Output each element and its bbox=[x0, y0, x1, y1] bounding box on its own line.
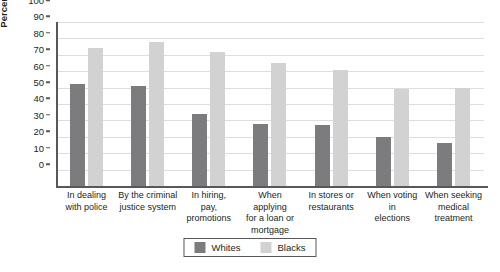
x-label-line: elections bbox=[375, 213, 411, 223]
x-label-line: restaurants bbox=[309, 202, 354, 212]
bar-blacks bbox=[271, 63, 286, 186]
x-label-line: pay, bbox=[201, 202, 217, 212]
bar-blacks bbox=[455, 88, 470, 186]
bar-chart: Percentage 1009080706050403020100 In dea… bbox=[0, 0, 500, 272]
bar-group bbox=[178, 22, 239, 186]
x-axis-line bbox=[56, 186, 488, 188]
legend-label: Whites bbox=[211, 242, 240, 253]
y-tick-label: 90 bbox=[0, 11, 44, 22]
bar-whites bbox=[131, 86, 146, 186]
bar-group bbox=[301, 22, 362, 186]
y-tick-label: 100 bbox=[0, 0, 44, 6]
y-tick-label: 40 bbox=[0, 93, 44, 104]
bar-blacks bbox=[88, 48, 103, 186]
y-tick-label: 10 bbox=[0, 142, 44, 153]
bar-blacks bbox=[149, 42, 164, 186]
y-tick-mark bbox=[46, 32, 50, 34]
x-label-line: mortgage bbox=[251, 225, 289, 235]
y-tick-mark bbox=[46, 114, 50, 116]
y-tick-mark bbox=[46, 0, 50, 1]
x-axis-category-label: In hiring,pay,promotions bbox=[178, 190, 239, 236]
legend-item-whites: Whites bbox=[194, 242, 240, 253]
y-tick-label: 20 bbox=[0, 126, 44, 137]
legend-item-blacks: Blacks bbox=[261, 242, 306, 253]
bar-group bbox=[56, 22, 117, 186]
bar-group bbox=[362, 22, 423, 186]
x-label-line: In dealing bbox=[67, 190, 106, 200]
bar-whites bbox=[70, 84, 85, 186]
bar-whites bbox=[253, 124, 268, 186]
x-label-line: for a loan or bbox=[246, 213, 294, 223]
x-label-line: When voting in bbox=[367, 190, 417, 212]
x-label-line: When seeking bbox=[425, 190, 482, 200]
bar-whites bbox=[192, 114, 207, 186]
legend-swatch-icon bbox=[261, 242, 272, 253]
y-tick-label: 80 bbox=[0, 27, 44, 38]
x-axis-category-label: In dealingwith police bbox=[56, 190, 117, 236]
bar-whites bbox=[437, 143, 452, 186]
bar-group bbox=[239, 22, 300, 186]
bar-blacks bbox=[394, 89, 409, 186]
x-label-line: In hiring, bbox=[192, 190, 227, 200]
y-tick-mark bbox=[46, 65, 50, 67]
x-label-line: medical bbox=[438, 202, 469, 212]
legend: WhitesBlacks bbox=[183, 238, 316, 257]
y-tick-mark bbox=[46, 163, 50, 165]
x-axis-category-label: When applyingfor a loan ormortgage bbox=[239, 190, 300, 236]
x-label-line: justice system bbox=[119, 202, 176, 212]
x-axis-category-label: When voting inelections bbox=[362, 190, 423, 236]
y-tick-mark bbox=[46, 16, 50, 18]
y-tick-mark bbox=[46, 48, 50, 50]
y-tick-label: 60 bbox=[0, 60, 44, 71]
y-tick-label: 30 bbox=[0, 109, 44, 120]
bar-whites bbox=[376, 137, 391, 186]
x-axis-category-label: By the criminaljustice system bbox=[117, 190, 178, 236]
y-tick-mark bbox=[46, 147, 50, 149]
x-label-line: In stores or bbox=[309, 190, 354, 200]
bar-groups bbox=[56, 22, 484, 186]
legend-swatch-icon bbox=[194, 242, 205, 253]
bar-group bbox=[117, 22, 178, 186]
y-tick-mark bbox=[46, 130, 50, 132]
y-tick-mark bbox=[46, 81, 50, 83]
x-axis-category-label: When seekingmedicaltreatment bbox=[423, 190, 484, 236]
legend-label: Blacks bbox=[278, 242, 306, 253]
x-label-line: By the criminal bbox=[118, 190, 177, 200]
y-tick-mark bbox=[46, 98, 50, 100]
x-axis-labels: In dealingwith policeBy the criminaljust… bbox=[56, 190, 484, 236]
y-tick-label: 50 bbox=[0, 77, 44, 88]
x-label-line: treatment bbox=[434, 213, 472, 223]
bar-group bbox=[423, 22, 484, 186]
bar-blacks bbox=[333, 70, 348, 186]
bar-blacks bbox=[210, 52, 225, 186]
bar-whites bbox=[315, 125, 330, 186]
x-label-line: promotions bbox=[187, 213, 232, 223]
y-tick-label: 70 bbox=[0, 44, 44, 55]
x-axis-category-label: In stores orrestaurants bbox=[301, 190, 362, 236]
x-label-line: with police bbox=[66, 202, 108, 212]
y-tick-label: 0 bbox=[0, 159, 44, 170]
x-label-line: When applying bbox=[253, 190, 287, 212]
y-axis-ticks: 1009080706050403020100 bbox=[0, 0, 50, 164]
